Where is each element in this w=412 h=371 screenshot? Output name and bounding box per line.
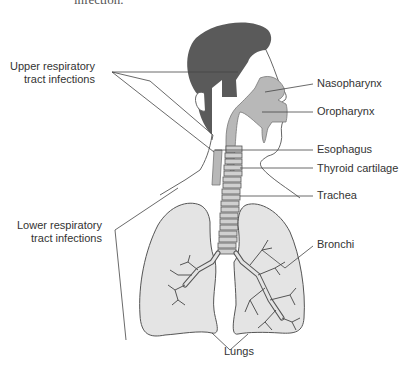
left-lung	[140, 203, 218, 336]
label-upper-line2: tract infections	[10, 73, 95, 86]
label-lower-line1: Lower respiratory	[17, 219, 102, 232]
label-lungs: Lungs	[224, 345, 254, 358]
label-esophagus: Esophagus	[317, 143, 372, 156]
label-upper-line1: Upper respiratory	[10, 60, 95, 73]
leader-lower-down	[115, 230, 126, 340]
label-lower-respiratory: Lower respiratory tract infections	[17, 219, 102, 245]
esophagus	[212, 150, 222, 185]
label-bronchi: Bronchi	[317, 238, 354, 251]
right-lung	[233, 204, 304, 334]
respiratory-diagram	[0, 0, 412, 371]
label-upper-respiratory: Upper respiratory tract infections	[10, 60, 95, 86]
label-trachea: Trachea	[317, 189, 357, 202]
label-lower-line2: tract infections	[17, 232, 102, 245]
label-nasopharynx: Nasopharynx	[317, 77, 382, 90]
label-thyroid-cartilage: Thyroid cartilage	[317, 162, 398, 175]
ear	[195, 92, 205, 111]
label-oropharynx: Oropharynx	[317, 105, 374, 118]
